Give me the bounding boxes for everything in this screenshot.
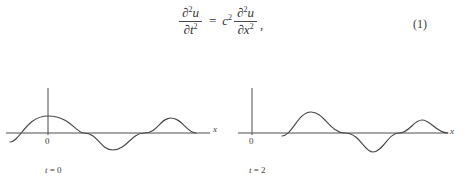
plot-right: [236, 72, 471, 187]
plot-left: [0, 72, 236, 187]
lhs-fraction: ∂2u ∂t2: [179, 6, 202, 36]
origin-label-right: 0: [249, 136, 254, 146]
wave-speed-coefficient: c2: [222, 13, 232, 29]
origin-label-left: 0: [45, 136, 50, 146]
wave-equation-formula: ∂2u ∂t2 = c2 ∂2u ∂x2 ,: [178, 6, 263, 36]
caption-t0: t = 0: [45, 165, 62, 175]
equation-comma: ,: [260, 17, 263, 36]
rhs-numerator-variable: u: [248, 5, 255, 20]
rhs-numerator: ∂2u: [234, 6, 257, 21]
equation-number: (1): [413, 17, 427, 32]
equation-block: ∂2u ∂t2 = c2 ∂2u ∂x2 , (1): [0, 6, 471, 46]
figure-wave-at-t0: 0 x t = 0: [0, 72, 236, 187]
lhs-denominator: ∂t2: [180, 22, 200, 37]
wave-curve-right: [282, 112, 448, 152]
equals-sign: =: [209, 13, 216, 29]
caption-value-right: = 2: [252, 165, 266, 175]
rhs-fraction: ∂2u ∂x2: [234, 6, 257, 36]
lhs-denominator-order: 2: [194, 21, 198, 30]
rhs-denominator-order: 2: [250, 21, 254, 30]
figure-wave-at-t2: 0 x t = 2: [236, 72, 471, 187]
x-axis-label-left: x: [213, 124, 217, 134]
coefficient-exponent: 2: [228, 13, 232, 22]
x-axis-label-right: x: [450, 126, 454, 136]
caption-value-left: = 0: [48, 165, 62, 175]
lhs-numerator: ∂2u: [179, 6, 202, 21]
figure-group: 0 x t = 0 0 x t = 2: [0, 72, 471, 187]
caption-t2: t = 2: [249, 165, 266, 175]
lhs-numerator-variable: u: [192, 5, 199, 20]
rhs-denominator: ∂x2: [234, 22, 256, 37]
